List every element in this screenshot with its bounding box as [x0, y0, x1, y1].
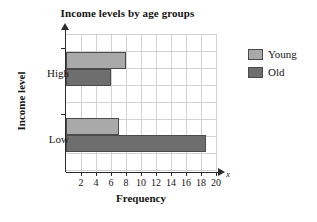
x-axis-tick	[141, 172, 142, 176]
bar-high-young	[66, 52, 126, 69]
legend-item-old[interactable]: Old	[248, 63, 297, 81]
legend-item-young[interactable]: Young	[248, 45, 297, 63]
gridline-horizontal	[66, 153, 216, 154]
x-axis-tick-label: 20	[205, 177, 227, 188]
legend-label-old: Old	[268, 66, 285, 78]
y-axis-tick	[61, 114, 66, 115]
x-axis-title: Frequency	[66, 192, 216, 204]
y-axis-tick	[61, 48, 66, 49]
gridline-horizontal	[66, 102, 216, 103]
x-axis-tick	[126, 172, 127, 176]
x-axis-tick	[156, 172, 157, 176]
plot-area	[66, 34, 216, 172]
x-axis-tick	[216, 172, 217, 176]
x-axis-tick	[96, 172, 97, 176]
y-axis-title: Income level	[15, 51, 27, 151]
x-axis-arrow-icon	[218, 168, 225, 176]
gridline-horizontal	[66, 170, 216, 171]
bar-low-young	[66, 118, 119, 135]
gridline-vertical	[216, 34, 217, 172]
x-axis-tick	[201, 172, 202, 176]
chart-title: Income levels by age groups	[0, 7, 255, 19]
x-axis-tick	[111, 172, 112, 176]
bar-low-old	[66, 135, 206, 152]
x-axis-line	[66, 172, 219, 173]
gridline-horizontal	[66, 34, 216, 35]
y-axis-category-label-low: Low	[49, 133, 69, 145]
legend-swatch-old	[248, 67, 263, 78]
chart-legend: YoungOld	[248, 45, 297, 81]
legend-label-young: Young	[268, 48, 297, 60]
legend-swatch-young	[248, 49, 263, 60]
x-axis-tick	[81, 172, 82, 176]
y-axis-category-label-high: High	[47, 67, 69, 79]
x-axis-tick	[171, 172, 172, 176]
y-axis-arrow-icon	[61, 23, 69, 30]
y-axis-line	[65, 28, 66, 172]
x-axis-tick	[186, 172, 187, 176]
bar-high-old	[66, 69, 111, 86]
